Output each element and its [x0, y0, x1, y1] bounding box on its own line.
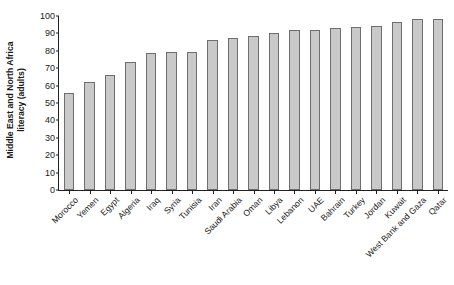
y-axis-tick-mark: [56, 50, 60, 51]
bar-saudi-arabia: [228, 38, 239, 190]
y-axis-tick-label: 90: [45, 28, 55, 38]
x-axis-tick-mark: [192, 190, 193, 194]
y-axis-tick-label: 0: [50, 185, 55, 195]
x-axis-tick-mark: [172, 190, 173, 194]
x-axis-tick-mark: [397, 190, 398, 194]
x-axis-tick-mark: [110, 190, 111, 194]
x-axis-tick-label: Algeria: [116, 195, 142, 221]
bar-egypt: [105, 75, 116, 190]
x-axis-tick-mark: [376, 190, 377, 194]
bar-qatar: [433, 19, 444, 190]
y-axis-tick-label: 20: [45, 150, 55, 160]
bar-libya: [269, 33, 280, 190]
x-axis-tick-mark: [131, 190, 132, 194]
y-axis-tick-label: 100: [40, 11, 55, 21]
y-axis-tick-mark: [56, 120, 60, 121]
y-axis-tick-mark: [56, 103, 60, 104]
x-axis-tick-mark: [233, 190, 234, 194]
bar-iran: [207, 40, 218, 190]
bar-jordan: [371, 26, 382, 190]
x-axis-tick-mark: [69, 190, 70, 194]
y-axis-title-line-2: literacy (adults): [16, 41, 27, 158]
y-axis-tick-mark: [56, 33, 60, 34]
bar-bahrain: [330, 28, 341, 190]
y-axis-tick-mark: [56, 16, 60, 17]
bar-oman: [248, 36, 259, 190]
x-axis-tick-mark: [356, 190, 357, 194]
literacy-bar-chart: Middle East and North Africa literacy (a…: [0, 0, 454, 285]
y-axis-title-line-1: Middle East and North Africa: [5, 41, 16, 158]
y-axis-tick-mark: [56, 68, 60, 69]
y-axis-tick-mark: [56, 172, 60, 173]
x-axis-tick-label: Turkey: [342, 195, 367, 220]
x-axis-tick-label: Yemen: [75, 195, 101, 221]
x-axis-tick-mark: [315, 190, 316, 194]
y-axis-tick-mark: [56, 85, 60, 86]
y-axis-tick-label: 50: [45, 98, 55, 108]
y-axis-tick-label: 70: [45, 63, 55, 73]
y-axis-tick-label: 10: [45, 168, 55, 178]
bar-yemen: [84, 82, 95, 190]
y-axis-tick-label: 30: [45, 133, 55, 143]
x-axis-tick-mark: [151, 190, 152, 194]
x-axis-tick-mark: [274, 190, 275, 194]
x-axis-tick-label: Iraq: [145, 195, 163, 213]
x-axis-tick-mark: [417, 190, 418, 194]
bar-turkey: [351, 27, 362, 190]
y-axis-tick-label: 40: [45, 115, 55, 125]
x-axis-tick-mark: [335, 190, 336, 194]
y-axis-tick-mark: [56, 155, 60, 156]
x-axis-tick-mark: [438, 190, 439, 194]
bar-algeria: [125, 62, 136, 190]
x-axis-tick-mark: [90, 190, 91, 194]
y-axis-tick-label: 60: [45, 81, 55, 91]
x-axis-tick-label: Qatar: [427, 195, 449, 217]
x-axis-tick-mark: [254, 190, 255, 194]
bar-tunisia: [187, 52, 198, 190]
bar-morocco: [64, 93, 75, 190]
y-axis-tick-label: 80: [45, 46, 55, 56]
bar-syria: [166, 52, 177, 190]
plot-area: 0102030405060708090100MoroccoYemenEgyptA…: [58, 16, 448, 191]
y-axis-tick-mark: [56, 137, 60, 138]
x-axis-tick-mark: [294, 190, 295, 194]
x-axis-tick-mark: [213, 190, 214, 194]
bar-lebanon: [289, 30, 300, 190]
bar-uae: [310, 30, 321, 190]
bar-west-bank-and-gaza: [412, 19, 423, 190]
x-axis-tick-label: Oman: [241, 195, 265, 219]
x-axis-tick-label: Morocco: [50, 195, 80, 225]
x-axis-tick-label: Jordan: [362, 195, 388, 221]
y-axis-tick-mark: [56, 190, 60, 191]
y-axis-title: Middle East and North Africa literacy (a…: [0, 0, 32, 200]
bar-kuwait: [392, 22, 403, 190]
bar-iraq: [146, 53, 157, 190]
